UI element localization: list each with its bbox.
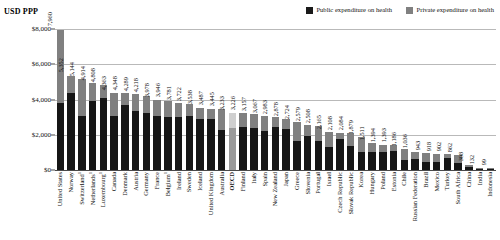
bar-norway[interactable]: 5,352 [66, 22, 77, 170]
bar-stack: 3,722 [186, 104, 194, 170]
bar-segment-private [186, 104, 194, 116]
bar-segment-public [153, 116, 161, 170]
bar-denmark[interactable]: 4,348 [120, 22, 131, 170]
bar-value-label: 99 [481, 159, 487, 165]
bar-unitedstates[interactable]: 7,960 [55, 22, 66, 170]
bar-segment-public [143, 113, 151, 170]
bar-value-label: 2,983 [262, 100, 268, 114]
bar-segment-private [218, 109, 226, 129]
bar-segment-private [89, 83, 97, 100]
bar-spain[interactable]: 3,067 [259, 22, 270, 170]
bar-slovakrepublic[interactable]: 2,084 [345, 22, 356, 170]
bar-segment-private [110, 93, 118, 116]
bar-greece[interactable]: 2,724 [292, 22, 303, 170]
bar-value-label: 3,157 [240, 97, 246, 111]
y-axis-ticks: $0$2,000$4,000$6,000$8,000 [0, 22, 55, 170]
bar-stack: 5,144 [78, 79, 86, 170]
bar-segment-private [304, 125, 312, 137]
bar-value-label: 3,978 [144, 83, 150, 97]
x-label-slot: Iceland [195, 171, 206, 240]
bar-finland[interactable]: 3,226 [238, 22, 249, 170]
bar-southafrica[interactable]: 862 [453, 22, 464, 170]
bar-slovenia[interactable]: 2,579 [302, 22, 313, 170]
x-label-slot: Russian Federation [410, 171, 421, 240]
y-axis-title: USD PPP [4, 7, 38, 16]
x-label-slot: United States [55, 171, 66, 240]
bar-stack: 2,108 [336, 133, 344, 170]
bar-israel[interactable]: 2,165 [324, 22, 335, 170]
bar-segment-public [433, 162, 441, 170]
bar-value-label: 5,144 [68, 62, 74, 76]
bar-segment-public [401, 160, 409, 170]
bar-value-label: 2,878 [273, 102, 279, 116]
bar-stack: 2,983 [272, 117, 280, 170]
x-label-slot: Ireland [173, 171, 184, 240]
bar-estonia[interactable]: 1,393 [388, 22, 399, 170]
bar-newzealand[interactable]: 2,983 [270, 22, 281, 170]
bar-japan[interactable]: 2,878 [281, 22, 292, 170]
x-axis-label-germany: Germany [143, 172, 149, 196]
bar-korea[interactable]: 1,879 [356, 22, 367, 170]
bar-value-label: 3,538 [187, 91, 193, 105]
bar-segment-private [143, 96, 151, 113]
x-axis-label-france: France [154, 172, 160, 189]
y-tick-label-4000: $4,000 [32, 96, 51, 104]
bar-value-label: 4,218 [133, 79, 139, 93]
bar-luxembourg[interactable]: 4,808 [98, 22, 109, 170]
bar-stack: 132 [476, 168, 484, 170]
bar-segment-private [78, 79, 86, 115]
bar-poland[interactable]: 1,394 [378, 22, 389, 170]
x-axis-label-newzealand: New Zealand [272, 172, 278, 206]
chart-legend: Public expenditure on healthPrivate expe… [306, 7, 494, 14]
bar-china[interactable]: 308 [464, 22, 475, 170]
x-label-slot: Luxembourg1 [98, 171, 109, 240]
bar-canada[interactable]: 4,363 [109, 22, 120, 170]
bar-india[interactable]: 132 [474, 22, 485, 170]
x-axis-label-slovakrepublic: Slovak Republic [347, 172, 353, 214]
bar-segment-public [358, 152, 366, 170]
bar-segment-public [121, 105, 129, 170]
bar-austria[interactable]: 4,289 [130, 22, 141, 170]
x-axis-label-unitedstates: United States [57, 172, 63, 206]
x-axis-label-austria: Austria [132, 172, 138, 191]
bar-stack: 3,226 [239, 113, 247, 170]
bar-netherlands[interactable]: 4,914 [87, 22, 98, 170]
bar-hungary[interactable]: 1,511 [367, 22, 378, 170]
x-label-slot: Portugal [313, 171, 324, 240]
bar-portugal[interactable]: 2,508 [313, 22, 324, 170]
footnote-marker: 1 [88, 172, 93, 174]
bar-switzerland[interactable]: 5,144 [77, 22, 88, 170]
x-axis-label-finland: Finland [240, 172, 246, 192]
bar-segment-public [487, 169, 495, 170]
bar-value-label: 918 [426, 141, 432, 150]
x-axis-label-chile: Chile [401, 172, 407, 186]
bar-segment-public [207, 119, 215, 170]
x-axis-label-greece: Greece [294, 172, 300, 190]
x-label-slot: Belgium1 [163, 171, 174, 240]
bar-value-label: 1,511 [359, 126, 365, 140]
bar-segment-public [78, 116, 86, 170]
bar-czechrepublic[interactable]: 2,108 [335, 22, 346, 170]
bar-value-label: 2,579 [294, 107, 300, 121]
footnote-marker: 1 [99, 172, 104, 174]
x-axis-label-canada: Canada [111, 172, 117, 191]
bar-segment-public [250, 128, 258, 170]
bar-value-label: 1,186 [391, 132, 397, 146]
bar-segment-private [164, 101, 172, 118]
x-label-slot: China [464, 171, 475, 240]
x-axis-label-russianfederation: Russian Federation [412, 172, 418, 221]
bar-segment-public [132, 111, 140, 170]
x-axis-label-spain: Spain [261, 172, 267, 187]
x-label-slot: Estonia [388, 171, 399, 240]
bar-italy[interactable]: 3,157 [249, 22, 260, 170]
bar-value-label: 7,960 [47, 13, 53, 27]
bar-segment-private [411, 152, 419, 159]
x-label-slot: Korea [356, 171, 367, 240]
x-axis-label-southafrica: South Africa [455, 172, 461, 204]
bar-segment-public [336, 139, 344, 170]
x-label-slot: Brazil [421, 171, 432, 240]
bar-value-label: 3,946 [154, 83, 160, 97]
bar-indonesia[interactable]: 99 [485, 22, 496, 170]
x-label-slot: Netherlands1 [87, 171, 98, 240]
bar-segment-public [422, 162, 430, 170]
